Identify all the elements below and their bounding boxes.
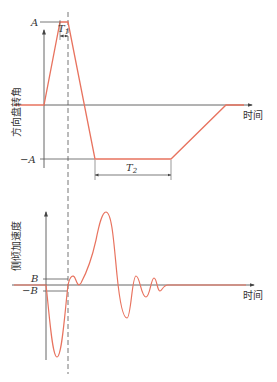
- t2-label: T2: [126, 162, 138, 175]
- threshold-b-label: B: [30, 273, 38, 284]
- roll-acceleration-curve: [14, 212, 246, 357]
- t1-label: T1: [58, 23, 69, 36]
- steering-angle-plot: A −A T1 T2 时间 方向盘转角: [10, 17, 263, 180]
- bottom-y-axis-label: 侧倾加速度: [10, 221, 22, 271]
- threshold-neg-b-label: −B: [22, 285, 38, 296]
- steering-rollover-diagram: A −A T1 T2 时间 方向盘转角 B −B 时间 侧倾加速度: [0, 0, 277, 382]
- roll-acceleration-plot: B −B 时间 侧倾加速度: [10, 212, 263, 360]
- level-a-label: A: [30, 17, 38, 28]
- top-y-axis-label: 方向盘转角: [10, 87, 22, 137]
- top-x-axis-label: 时间: [243, 109, 263, 121]
- steering-angle-curve: [14, 22, 244, 159]
- level-neg-a-label: −A: [20, 154, 36, 165]
- bottom-x-axis-label: 时间: [243, 289, 263, 301]
